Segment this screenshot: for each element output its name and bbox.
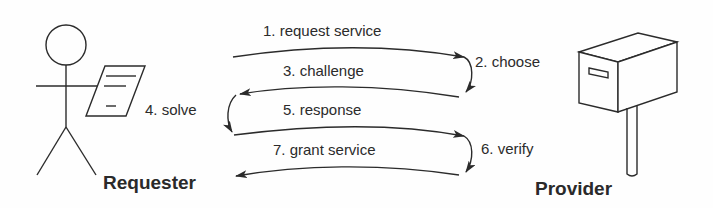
provider-label: Provider: [535, 178, 612, 200]
arrow-grant-service: [236, 167, 459, 176]
step-4-label: 4. solve: [145, 101, 197, 119]
step-6-label: 6. verify: [481, 140, 534, 158]
arrow-request-service: [233, 48, 464, 57]
arrow-response: [234, 127, 464, 136]
requester-label: Requester: [103, 172, 196, 194]
arrow-solve-loop: [228, 95, 236, 132]
step-5-label: 5. response: [283, 101, 361, 119]
protocol-diagram: 1. request service 2. choose 3. challeng…: [0, 0, 713, 208]
step-1-label: 1. request service: [263, 22, 381, 40]
arrow-verify-loop: [464, 136, 472, 172]
provider-mailbox-icon: [579, 33, 677, 176]
arrow-choose-loop: [464, 57, 472, 92]
step-2-label: 2. choose: [475, 53, 540, 71]
arrow-challenge: [240, 87, 459, 97]
step-3-label: 3. challenge: [283, 62, 364, 80]
document-icon: [86, 66, 145, 116]
requester-stick-figure-icon: [36, 25, 98, 175]
step-7-label: 7. grant service: [273, 141, 376, 159]
